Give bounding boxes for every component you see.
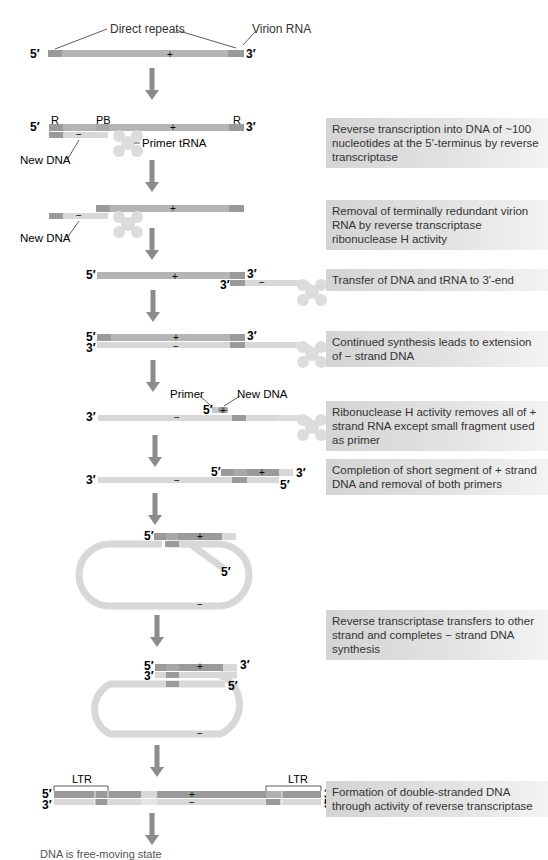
step-description-6: Completion of short segment of + strand … <box>326 459 548 495</box>
stage-virion-rna: Direct repeats Virion RNA 5′ 3′ + <box>30 22 311 61</box>
svg-text:3′: 3′ <box>247 267 257 281</box>
svg-text:+: + <box>220 405 226 416</box>
bottom-caption-fragment: DNA is free-moving state <box>40 848 162 860</box>
svg-text:−: − <box>76 129 82 140</box>
svg-text:+: + <box>167 49 173 60</box>
stage-rnase-h: + − New DNA <box>20 203 244 244</box>
svg-text:+: + <box>197 661 203 672</box>
arrow-icon <box>148 435 162 467</box>
svg-text:−: − <box>189 797 195 808</box>
new-dna-label: New DNA <box>20 154 71 166</box>
svg-text:3′: 3′ <box>247 329 257 343</box>
svg-text:5′: 5′ <box>228 679 238 693</box>
svg-text:3′: 3′ <box>86 410 96 424</box>
primer-label: Primer <box>170 388 204 400</box>
step-description-4: Continued synthesis leads to extension o… <box>326 331 548 367</box>
svg-text:−: − <box>173 341 179 352</box>
svg-text:5′: 5′ <box>30 120 40 134</box>
virion-rna-label: Virion RNA <box>252 22 311 36</box>
svg-text:5′: 5′ <box>203 403 213 417</box>
svg-text:3′: 3′ <box>144 669 154 683</box>
step-description-5: Ribonuclease H activity removes all of +… <box>326 401 548 451</box>
svg-text:−: − <box>197 728 203 739</box>
stage-continued-synthesis: 5′ 3′ 3′ + − <box>86 329 327 368</box>
arrow-icon <box>146 290 160 322</box>
svg-text:3′: 3′ <box>42 798 52 812</box>
svg-text:3′: 3′ <box>220 278 230 292</box>
ltr-label-right: LTR <box>288 773 308 785</box>
stage-circular-transfer: 5′ 5′ + − <box>79 529 249 610</box>
svg-text:3′: 3′ <box>246 47 256 61</box>
primer-trna-label: Primer tRNA <box>142 137 207 149</box>
stage-initial-rt: R PB R 5′ 3′ + − New DNA Primer tRNA <box>20 114 256 166</box>
step-description-1: Reverse transcription into DNA of ~100 n… <box>326 118 548 168</box>
svg-text:+: + <box>170 122 176 133</box>
svg-text:5′: 5′ <box>144 529 154 543</box>
step-description-2: Removal of terminally redundant virion R… <box>326 200 548 250</box>
arrow-icon <box>145 813 159 845</box>
arrow-icon <box>146 360 160 392</box>
svg-text:New DNA: New DNA <box>20 232 71 244</box>
step-description-3: Transfer of DNA and tRNA to 3′-end <box>326 269 548 291</box>
svg-text:−: − <box>197 599 203 610</box>
stage-minus-strand-complete: 5′ 3′ 3′ 5′ + − <box>95 658 250 739</box>
svg-text:5′: 5′ <box>86 268 96 282</box>
svg-text:−: − <box>174 475 180 486</box>
svg-text:New DNA: New DNA <box>237 388 288 400</box>
svg-text:5′: 5′ <box>211 465 221 479</box>
svg-text:+: + <box>172 271 178 282</box>
arrow-icon <box>145 228 159 260</box>
svg-text:−: − <box>259 277 265 288</box>
stage-plus-strand-segment: 5′ 3′ 3′ 5′ + − <box>86 465 306 492</box>
step-description-7: Reverse transcriptase transfers to other… <box>326 610 548 660</box>
svg-text:5′: 5′ <box>221 565 231 579</box>
arrow-icon <box>145 68 159 100</box>
stage-transfer: 5′ 3′ 3′ + − <box>86 267 327 306</box>
svg-text:3′: 3′ <box>296 466 306 480</box>
stage-primer-fragment: Primer New DNA 5′ + 3′ − <box>86 388 327 441</box>
ltr-label-left: LTR <box>72 773 92 785</box>
step-description-8: Formation of double-stranded DNA through… <box>326 781 548 817</box>
svg-text:3′: 3′ <box>246 120 256 134</box>
svg-text:3′: 3′ <box>86 341 96 355</box>
svg-text:+: + <box>197 531 203 542</box>
svg-text:+: + <box>170 203 176 214</box>
arrow-icon <box>145 160 159 192</box>
direct-repeats-label: Direct repeats <box>110 22 185 36</box>
arrow-icon <box>150 745 164 777</box>
svg-text:−: − <box>174 412 180 423</box>
stage-double-stranded-dna: LTR LTR 5′ 3′ 3′ 5′ + − <box>42 773 334 812</box>
svg-text:−: − <box>76 210 82 221</box>
svg-text:5′: 5′ <box>280 478 290 492</box>
arrow-icon <box>148 493 162 525</box>
svg-text:+: + <box>259 467 265 478</box>
svg-text:3′: 3′ <box>240 658 250 672</box>
arrow-icon <box>150 615 164 647</box>
svg-text:5′: 5′ <box>30 47 40 61</box>
svg-text:3′: 3′ <box>86 473 96 487</box>
